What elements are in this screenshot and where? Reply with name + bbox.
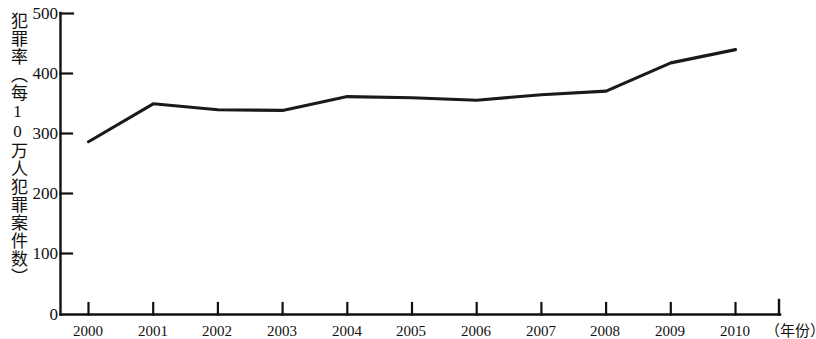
x-axis-ticks: [89, 303, 736, 315]
crime-rate-line-chart: 犯罪率（每10万人犯罪案件数） 500 400 300 200 100 0 20…: [0, 0, 816, 339]
axis-lines: [61, 13, 781, 315]
y-axis-ticks: [61, 74, 73, 254]
plot-area: [0, 0, 816, 339]
crime-rate-data-line: [89, 50, 736, 142]
